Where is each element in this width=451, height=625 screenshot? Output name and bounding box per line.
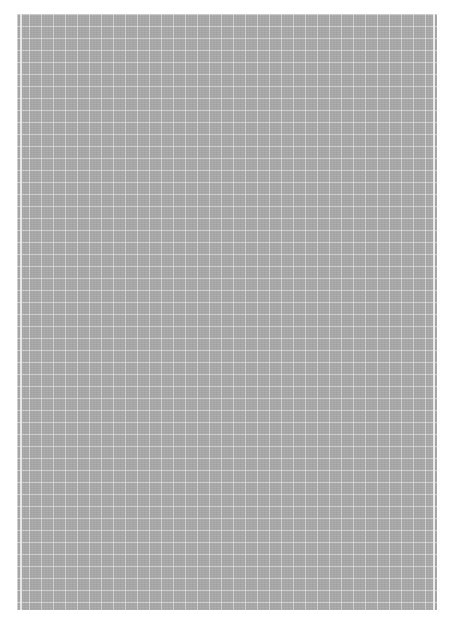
sheet-left-edge-line xyxy=(20,14,22,610)
sheet-right-edge-line xyxy=(433,14,435,610)
grid-paper-sheet xyxy=(17,14,437,610)
